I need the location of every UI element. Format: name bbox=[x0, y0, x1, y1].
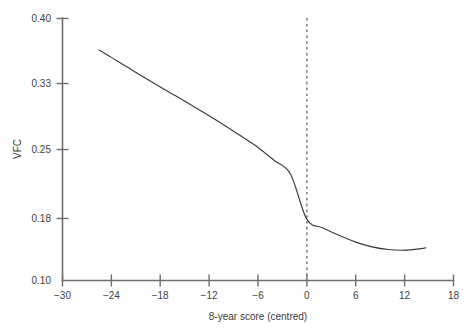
x-tick-label-18: 18 bbox=[448, 290, 460, 301]
x-tick-label-0: 0 bbox=[304, 290, 310, 301]
chart-plot-area: 0.40 0.33 0.25 0.18 0.10 −30 −24 −18 −12… bbox=[0, 0, 471, 331]
x-axis-title: 8-year score (centred) bbox=[209, 311, 307, 322]
y-tick-label-0.33: 0.33 bbox=[32, 78, 52, 89]
x-tick-label--6: −6 bbox=[252, 290, 264, 301]
x-tick-label-6: 6 bbox=[353, 290, 359, 301]
y-tick-label-0.18: 0.18 bbox=[32, 213, 52, 224]
x-tick-label--24: −24 bbox=[103, 290, 120, 301]
vfc-curve bbox=[99, 50, 426, 250]
y-tick-label-0.10: 0.10 bbox=[32, 275, 52, 286]
y-tick-label-0.25: 0.25 bbox=[32, 144, 52, 155]
chart-figure: 0.40 0.33 0.25 0.18 0.10 −30 −24 −18 −12… bbox=[0, 0, 471, 331]
x-tick-label-12: 12 bbox=[399, 290, 411, 301]
x-tick-label--12: −12 bbox=[201, 290, 218, 301]
x-tick-label--30: −30 bbox=[54, 290, 71, 301]
y-axis-title: VFC bbox=[12, 139, 23, 159]
y-tick-label-0.40: 0.40 bbox=[32, 13, 52, 24]
x-tick-label--18: −18 bbox=[152, 290, 169, 301]
